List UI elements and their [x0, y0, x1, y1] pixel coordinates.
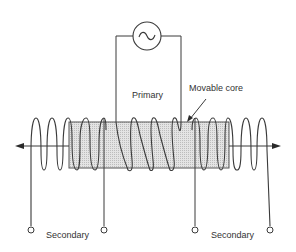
terminal-right-inner	[192, 227, 198, 233]
terminal-left-inner	[101, 227, 107, 233]
terminal-left-outer	[28, 227, 34, 233]
movable-core-label: Movable core	[189, 84, 243, 93]
terminal-right-outer	[267, 227, 273, 233]
movable-core	[69, 122, 229, 168]
secondary-left-label: Secondary	[46, 231, 89, 240]
secondary-right-label: Secondary	[211, 231, 254, 240]
right-arrowhead-icon	[272, 143, 281, 149]
primary-label: Primary	[132, 91, 163, 100]
primary-circuit	[116, 22, 181, 122]
diagram-drawing	[0, 0, 296, 252]
lvdt-diagram: Primary Movable core Secondary Secondary	[0, 0, 296, 252]
left-arrowhead-icon	[15, 143, 24, 149]
